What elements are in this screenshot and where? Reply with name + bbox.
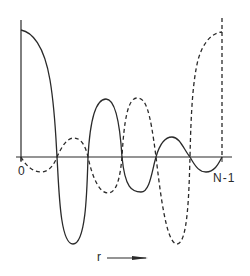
end-label: N-1 bbox=[213, 172, 235, 184]
r-arrow-head-icon bbox=[132, 256, 148, 260]
r-axis-label: r bbox=[97, 251, 101, 263]
solid-curve bbox=[21, 30, 222, 244]
plot-canvas bbox=[0, 0, 250, 276]
dashed-curve bbox=[21, 32, 222, 244]
diagram: 0 N-1 r bbox=[0, 0, 250, 276]
origin-label: 0 bbox=[18, 165, 25, 177]
